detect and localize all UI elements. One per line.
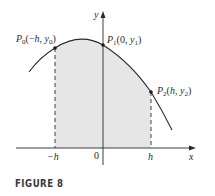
y-axis-label: y <box>93 9 99 20</box>
parabola-diagram: y x 0 −h h P0(−h, y0) P1(0, y1) P2(h, y2… <box>0 0 215 196</box>
point-p2 <box>149 90 153 94</box>
point-label-p1: P1(0, y1) <box>106 34 141 47</box>
point-label-p0: P0(−h, y0) <box>15 33 56 46</box>
y-axis-arrow-icon <box>101 11 106 18</box>
tick-label-minus-h: −h <box>47 151 59 162</box>
figure-caption: FIGURE 8 <box>15 177 64 189</box>
point-label-p2: P2(h, y2) <box>156 85 191 98</box>
point-p1 <box>101 43 105 47</box>
x-axis-label: x <box>188 151 194 162</box>
origin-label: 0 <box>94 150 99 161</box>
point-p0 <box>53 46 57 50</box>
x-axis-arrow-icon <box>189 146 196 151</box>
tick-label-h: h <box>148 151 153 162</box>
figure-8: y x 0 −h h P0(−h, y0) P1(0, y1) P2(h, y2… <box>0 0 215 196</box>
